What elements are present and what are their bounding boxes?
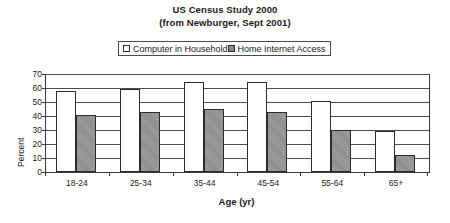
y-axis-tick-label: 40 bbox=[33, 112, 42, 120]
x-axis-tick-mark bbox=[173, 172, 174, 176]
x-axis-tick-mark bbox=[237, 172, 238, 176]
y-axis-title: Percent bbox=[16, 153, 26, 167]
bar bbox=[76, 115, 96, 172]
chart-title: US Census Study 2000 (from Newburger, Se… bbox=[0, 0, 450, 29]
x-axis-tick-labels: 18-2425-3435-4445-5455-6465+ bbox=[45, 178, 428, 190]
x-axis-tick-label: 35-44 bbox=[194, 178, 216, 188]
x-axis-tick-mark bbox=[109, 172, 110, 176]
x-axis-tick-label: 65+ bbox=[389, 178, 403, 188]
legend-entry-computer-in-household: Computer in Household bbox=[123, 44, 228, 54]
bar-group bbox=[56, 74, 96, 172]
bar-group bbox=[120, 74, 160, 172]
chart-title-line-2: (from Newburger, Sept 2001) bbox=[0, 16, 450, 29]
bar bbox=[184, 82, 204, 172]
x-axis-tick-mark bbox=[427, 172, 428, 176]
y-axis-tick-label: 20 bbox=[33, 140, 42, 148]
legend-label-home-internet-access: Home Internet Access bbox=[238, 44, 326, 54]
x-axis-title: Age (yr) bbox=[45, 196, 428, 207]
legend-entry-home-internet-access: Home Internet Access bbox=[228, 44, 326, 54]
bar-group bbox=[247, 74, 287, 172]
x-axis-tick-marks bbox=[45, 172, 428, 177]
y-axis-tick-label: 60 bbox=[33, 84, 42, 92]
y-axis-tick-label: 70 bbox=[33, 70, 42, 78]
bar-group bbox=[184, 74, 224, 172]
chart-title-line-1: US Census Study 2000 bbox=[0, 3, 450, 16]
chart-legend: Computer in Household Home Internet Acce… bbox=[118, 41, 331, 56]
x-axis-tick-mark bbox=[45, 172, 46, 176]
y-axis-tick-label: 10 bbox=[33, 154, 42, 162]
legend-swatch-home-internet-access bbox=[228, 45, 235, 52]
bar bbox=[204, 109, 224, 172]
bar bbox=[120, 89, 140, 172]
chart-plot-area: Percent 010203040506070 18-2425-3435-444… bbox=[0, 60, 450, 223]
legend-swatch-computer-in-household bbox=[123, 45, 130, 52]
plot-frame bbox=[45, 74, 430, 173]
bar bbox=[140, 112, 160, 172]
y-axis-tick-labels: 010203040506070 bbox=[26, 74, 42, 172]
x-axis-tick-label: 18-24 bbox=[66, 178, 88, 188]
x-axis-tick-label: 25-34 bbox=[130, 178, 152, 188]
bar-group bbox=[311, 74, 351, 172]
bar-group bbox=[375, 74, 415, 172]
bar bbox=[311, 101, 331, 172]
bar bbox=[56, 91, 76, 172]
bars-layer bbox=[46, 74, 429, 172]
x-axis-tick-label: 55-64 bbox=[321, 178, 343, 188]
bar bbox=[247, 82, 267, 172]
x-axis-tick-mark bbox=[364, 172, 365, 176]
y-axis-tick-label: 50 bbox=[33, 98, 42, 106]
bar bbox=[331, 130, 351, 172]
x-axis-tick-mark bbox=[300, 172, 301, 176]
bar bbox=[267, 112, 287, 172]
legend-label-computer-in-household: Computer in Household bbox=[133, 44, 228, 54]
x-axis-tick-label: 45-54 bbox=[258, 178, 280, 188]
bar bbox=[395, 155, 415, 172]
y-axis-tick-label: 30 bbox=[33, 126, 42, 134]
bar bbox=[375, 131, 395, 172]
